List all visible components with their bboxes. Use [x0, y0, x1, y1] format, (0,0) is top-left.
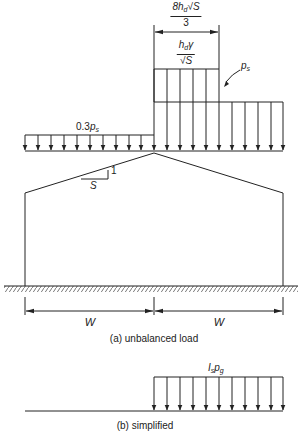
span-right-label: W [214, 316, 224, 328]
slope-rise-label: 1 [111, 165, 117, 176]
snow-load-label: ps [241, 60, 250, 72]
drift-load-label: hdγ √S [177, 39, 195, 67]
drift-load-block [154, 69, 219, 150]
simplified-load-block [25, 377, 283, 411]
unbalanced-snow-load-diagram [0, 0, 298, 434]
ground [4, 286, 298, 292]
caption-simplified: (b) simplified [117, 420, 174, 431]
drift-width-label: 8hd√S 3 [170, 1, 201, 29]
span-left-label: W [85, 316, 95, 328]
span-dimensions [25, 297, 283, 315]
building-frame [25, 153, 283, 286]
leeward-load-block [25, 135, 154, 150]
leeward-load-label: 0.3ps [76, 121, 99, 133]
caption-unbalanced-load: (a) unbalanced load [110, 333, 198, 344]
slope-run-label: S [90, 180, 97, 191]
simplified-load-label: Ispg [208, 362, 224, 374]
